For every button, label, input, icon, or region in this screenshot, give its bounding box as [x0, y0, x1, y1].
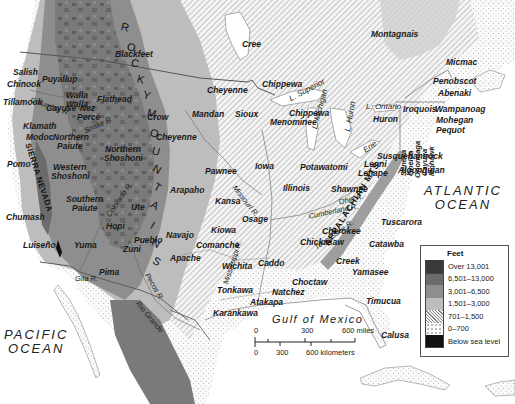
scale-km-0: 0 [254, 348, 258, 357]
scale-miles-300: 300 [301, 326, 314, 335]
tribe-label: Catawba [369, 240, 404, 249]
tribe-label: Pawnee [205, 167, 237, 176]
tribe-label: Penobscot [433, 77, 476, 86]
scale-miles-0: 0 [254, 326, 258, 335]
legend-items: Over 13,0016,501–13,0003,001–6,5001,501–… [425, 260, 504, 348]
elevation-legend: Feet Over 13,0016,501–13,0003,001–6,5001… [420, 245, 509, 357]
legend-title: Feet [447, 249, 504, 258]
legend-swatch [425, 298, 444, 311]
tribe-label: Mandan [192, 110, 224, 119]
lake-label: L. Ontario [366, 103, 401, 111]
scale-km-300: 300 [276, 348, 289, 357]
tribe-label: Atakapa [250, 298, 283, 307]
tribe-label: Kiowa [211, 226, 236, 235]
gulf-of-mexico-label: Gulf of Mexico [272, 313, 363, 325]
legend-item: 3,001–6,500 [425, 285, 504, 298]
legend-swatch [425, 273, 444, 286]
legend-label: 0–700 [448, 324, 469, 333]
legend-label: 1,501–3,000 [448, 299, 490, 308]
tribe-label: Huron [373, 115, 398, 124]
iroquois-nation-label: Mohawk [427, 146, 436, 176]
tribe-label: Sioux [235, 110, 258, 119]
tribe-label: Chumash [6, 213, 45, 222]
tribe-label: Cheyenne [156, 133, 197, 142]
tribe-label: Puyallup [42, 75, 77, 84]
tribe-label: Karankawa [213, 309, 258, 318]
tribe-label: Yamasee [352, 268, 389, 277]
tribe-label: Apache [170, 254, 201, 263]
legend-item: Below sea level [425, 335, 504, 348]
tribe-label: Arapaho [170, 186, 204, 195]
scale-miles-600: 600 miles [342, 326, 374, 335]
tribe-label: Iroquois [403, 105, 437, 114]
scale-line [254, 336, 358, 348]
legend-label: Over 13,001 [448, 262, 489, 271]
tribe-label: Zuni [123, 245, 141, 254]
tribe-label: Salish [13, 68, 38, 77]
tribe-label: Pomo [7, 160, 31, 169]
tribe-label: Ute [131, 203, 145, 212]
pacific-ocean-label: PACIFIC OCEAN [4, 328, 68, 355]
tribe-label: Kansa [215, 197, 241, 206]
legend-swatch [425, 335, 444, 348]
legend-swatch [425, 323, 444, 336]
tribe-label: Illinois [283, 184, 310, 193]
tribe-label: Shoshoni [51, 172, 90, 181]
tribe-label: Timucua [366, 297, 401, 306]
scale-bar: 0 300 600 miles 0 300 600 kilometers [254, 326, 384, 360]
scale-km-600: 600 kilometers [306, 348, 355, 357]
tribe-label: Wampanoag [435, 105, 485, 114]
legend-label: 701–1,500 [448, 312, 483, 321]
tribe-label: Calusa [381, 331, 409, 340]
tribe-label: Chinook [7, 80, 41, 89]
tribe-label: Abenaki [438, 89, 471, 98]
tribe-label: Navajo [166, 231, 194, 240]
legend-swatch [425, 285, 444, 298]
tribe-label: Mohegan [436, 116, 473, 125]
tribe-label: Natchez [272, 288, 305, 297]
tribe-label: Pequot [436, 126, 465, 135]
legend-item: 0–700 [425, 323, 504, 336]
tribe-label: Cheyenne [207, 86, 248, 95]
tribe-label: Tuscarora [381, 218, 422, 227]
tribe-label: Yuma [74, 241, 97, 250]
tribe-label: Micmac [446, 58, 477, 67]
tribe-label: Paiute [72, 204, 98, 213]
tribe-label: Iowa [255, 162, 274, 171]
legend-label: 6,501–13,000 [448, 274, 494, 283]
tribe-label: Flathead [97, 95, 132, 104]
legend-label: Below sea level [448, 337, 500, 346]
tribe-label: Luiseño [23, 241, 56, 250]
tribe-label: Shoshoni [104, 154, 143, 163]
river-label: Gila R. [75, 275, 98, 283]
legend-item: 1,501–3,000 [425, 298, 504, 311]
tribe-label: Montagnais [371, 30, 418, 39]
tribe-label: Klamath [23, 122, 57, 131]
tribe-label: Paiute [57, 142, 83, 151]
tribe-label: Caddo [258, 259, 284, 268]
tribe-label: Pima [99, 268, 119, 277]
tribe-label: Potawatomi [300, 163, 348, 172]
legend-swatch [425, 310, 444, 323]
tribe-label: Chippewa [262, 80, 302, 89]
tribe-label: Hopi [106, 222, 125, 231]
legend-item: 701–1,500 [425, 310, 504, 323]
atlantic-ocean-label: ATLANTIC OCEAN [424, 184, 502, 211]
tribe-label: Choctaw [292, 278, 327, 287]
legend-item: 6,501–13,000 [425, 273, 504, 286]
tribe-label: Creek [336, 257, 360, 266]
legend-swatch [425, 260, 444, 273]
tribe-label: Tonkawa [217, 286, 253, 295]
tribe-label: Modoc [26, 133, 53, 142]
legend-item: Over 13,001 [425, 260, 504, 273]
legend-label: 3,001–6,500 [448, 287, 490, 296]
tribe-label: Cree [242, 40, 261, 49]
